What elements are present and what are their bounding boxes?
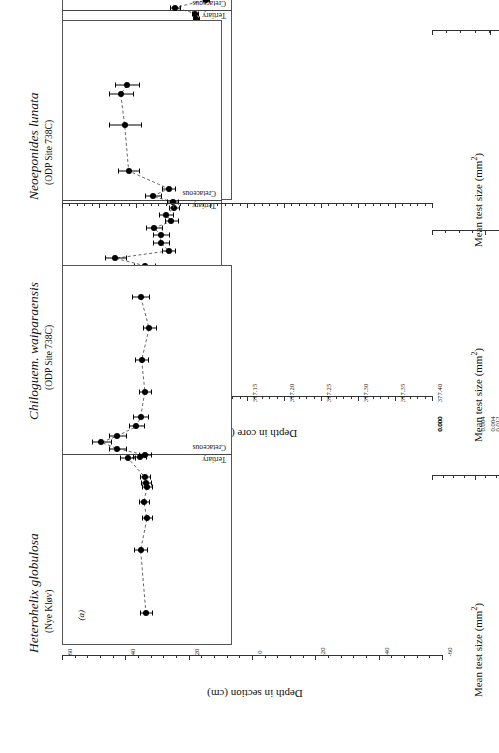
data-point [142,389,148,395]
axis-minor-tick [496,475,497,478]
y-title-sup-b: 2 [470,352,479,356]
error-bar-cap [126,256,127,261]
axis-minor-tick [343,396,344,399]
error-bar-cap [170,5,171,10]
axis-minor-tick [277,396,278,399]
error-bar-cap [145,194,146,199]
axis-minor-tick [306,203,307,206]
axis-minor-tick [262,203,263,206]
error-bar-cap [133,454,134,459]
y-title-sup: 2 [470,157,479,161]
axis-minor-tick [77,203,78,206]
axis-minor-tick [472,230,473,233]
error-bar-cap [142,516,143,521]
axis-minor-tick [84,203,85,206]
axis-minor-tick [217,203,218,206]
axis-minor-tick [336,396,337,399]
axis-minor-tick [129,203,130,206]
y-title-sup-a: 2 [470,607,479,611]
y-title-end: ) [472,153,484,157]
axis-minor-tick [388,396,389,399]
axis-minor-tick [87,655,88,658]
axis-minor-tick [380,396,381,399]
data-point [118,91,124,97]
y-title-text-a: Mean test size (mm [472,611,484,697]
axis-major-tick [284,203,285,208]
data-point [138,414,144,420]
data-point [142,452,148,458]
axis-minor-tick [269,396,270,399]
error-bar-cap [169,205,170,210]
error-bar-cap [139,168,140,173]
error-bar-cap [152,484,153,489]
error-bar-cap [139,83,140,88]
axis-minor-tick [114,203,115,206]
axis-minor-tick [341,655,342,658]
data-point [142,474,148,480]
axis-tick-label: 40 [129,649,136,656]
axis-minor-tick [265,655,266,658]
error-bar-cap [120,456,121,461]
error-bar-cap [147,548,148,553]
data-point [172,5,178,11]
axis-minor-tick [388,203,389,206]
data-point [112,255,118,261]
era-label-cretaceous: Cretaceous [193,0,226,8]
axis-minor-tick [417,396,418,399]
axis-minor-tick [366,655,367,658]
depth-section-axis-title: Depth in section (cm) [207,688,303,700]
value-axis-spine [432,230,499,231]
error-bar-cap [143,326,144,331]
axis-major-tick [252,655,253,660]
error-bar-cap [139,453,140,458]
axis-minor-tick [291,203,292,206]
axis-minor-tick [227,655,228,658]
axis-major-tick [247,203,248,208]
panel-b-species-name: Chiloguem. waiparaensis [26,235,42,420]
error-bar-cap [175,186,176,191]
axis-minor-tick [269,203,270,206]
data-point [143,481,149,487]
error-bar-cap [133,415,134,420]
data-point [126,168,132,174]
axis-major-tick [62,203,63,208]
axis-minor-tick [100,655,101,658]
data-point [122,122,128,128]
axis-minor-tick [402,203,403,206]
axis-major-tick [475,475,476,480]
axis-major-tick [62,655,63,660]
axis-minor-tick [254,203,255,206]
axis-minor-tick [163,655,164,658]
axis-minor-tick [373,203,374,206]
error-bar-cap [133,92,134,97]
axis-minor-tick [239,655,240,658]
axis-minor-tick [459,230,460,233]
axis-minor-tick [314,396,315,399]
y-title-end-a: ) [472,603,484,607]
axis-minor-tick [445,230,446,233]
axis-minor-tick [353,655,354,658]
era-label-tertiary: Tertiary [202,11,226,20]
axis-minor-tick [277,203,278,206]
axis-minor-tick [166,203,167,206]
axis-minor-tick [328,655,329,658]
error-bar-cap [165,219,166,224]
error-bar-cap [162,225,163,230]
axis-tick-label: 377.40 [436,384,443,402]
axis-minor-tick [214,655,215,658]
axis-minor-tick [303,655,304,658]
error-bar-cap [198,11,199,16]
axis-minor-tick [351,396,352,399]
axis-major-tick [315,655,316,660]
data-point [98,439,104,445]
axis-minor-tick [138,655,139,658]
data-point [150,193,156,199]
axis-major-tick [247,396,248,401]
panel-a-plot: TertiaryCretaceous [62,475,442,645]
axis-minor-tick [485,475,486,478]
error-bar-cap [134,548,135,553]
panel-a-plot-area: TertiaryCretaceous [62,265,232,645]
axis-major-tick [432,30,433,35]
axis-minor-tick [464,475,465,478]
error-bar-cap [148,415,149,420]
